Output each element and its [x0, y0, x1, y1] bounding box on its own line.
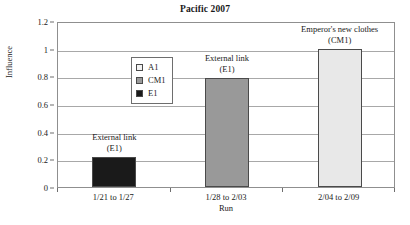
x-tick-mark: [170, 188, 171, 192]
annotation-main: Emperor's new clothes: [301, 24, 378, 34]
y-tick-label: 0.6: [37, 100, 48, 110]
legend-item-a1[interactable]: A1: [136, 61, 165, 74]
chart-legend: A1CM1E1: [131, 57, 173, 104]
bar-annotation: Emperor's new clothes(CM1): [301, 24, 378, 46]
y-tick-mark: [50, 188, 54, 189]
y-tick-label: 0.2: [37, 155, 48, 165]
annotation-series: (CM1): [301, 35, 378, 46]
x-tick-label: 1/21 to 1/27: [93, 192, 134, 202]
annotation-series: (E1): [205, 64, 249, 75]
bar-a1[interactable]: [318, 49, 362, 187]
x-tick-mark: [282, 188, 283, 192]
y-tick-mark: [50, 105, 54, 106]
y-tick-label: 0.4: [37, 128, 48, 138]
bar-e1[interactable]: [92, 157, 136, 187]
x-tick-mark: [394, 188, 395, 192]
annotation-main: External link: [205, 53, 249, 63]
bar-annotation: External link(E1): [92, 132, 136, 154]
legend-label: CM1: [148, 76, 165, 85]
legend-item-cm1[interactable]: CM1: [136, 74, 165, 87]
bar-annotation: External link(E1): [205, 53, 249, 75]
y-tick-label: 0: [44, 183, 48, 193]
annotation-series: (E1): [92, 143, 136, 154]
x-tick-label: 1/28 to 2/03: [205, 192, 246, 202]
x-axis-title: Run: [57, 203, 395, 213]
y-tick-mark: [50, 49, 54, 50]
legend-label: A1: [148, 63, 158, 72]
chart-figure: Pacific 2007 Influence 00.20.40.60.811.2…: [0, 0, 410, 225]
annotation-main: External link: [92, 132, 136, 142]
legend-swatch-icon: [136, 90, 143, 97]
y-tick-mark: [50, 22, 54, 23]
y-tick-label: 0.8: [37, 72, 48, 82]
legend-swatch-icon: [136, 77, 143, 84]
bar-cm1[interactable]: [205, 78, 249, 187]
legend-swatch-icon: [136, 64, 143, 71]
y-tick-label: 1.2: [37, 17, 48, 27]
x-tick-mark: [57, 188, 58, 192]
plot-area: External link(E1)External link(E1)Empero…: [57, 22, 395, 188]
y-tick-mark: [50, 160, 54, 161]
y-axis-ticks: 00.20.40.60.811.2: [0, 22, 54, 188]
y-tick-mark: [50, 132, 54, 133]
x-tick-label: 2/04 to 2/09: [318, 192, 359, 202]
legend-label: E1: [148, 89, 157, 98]
chart-title: Pacific 2007: [0, 4, 410, 14]
x-axis-ticks: 1/21 to 1/271/28 to 2/032/04 to 2/09: [57, 188, 395, 204]
y-tick-mark: [50, 77, 54, 78]
legend-item-e1[interactable]: E1: [136, 87, 165, 100]
y-tick-label: 1: [44, 45, 48, 55]
